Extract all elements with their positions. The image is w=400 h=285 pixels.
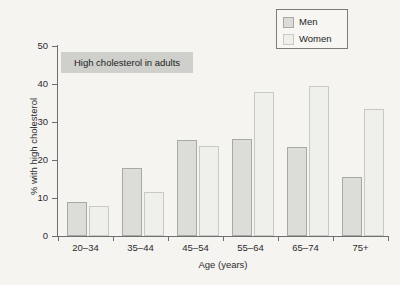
bar-men-2034	[67, 202, 87, 236]
y-axis-tick-label: 50	[20, 41, 48, 51]
x-axis-tick	[223, 236, 224, 241]
x-axis-tick-label: 65–74	[278, 243, 334, 253]
legend-item-men[interactable]: Men	[283, 14, 347, 30]
bar-men-6574	[287, 147, 307, 236]
x-axis-tick	[333, 236, 334, 241]
x-axis-tick-label: 75+	[333, 243, 389, 253]
legend-swatch-icon	[283, 34, 294, 45]
bar-women-75+	[364, 109, 384, 236]
bar-women-5564	[254, 92, 274, 236]
bar-women-4554	[199, 146, 219, 236]
x-axis-title: Age (years)	[58, 259, 388, 270]
legend-item-women[interactable]: Women	[283, 31, 347, 47]
x-axis-tick-label: 55–64	[223, 243, 279, 253]
x-axis-tick	[58, 236, 59, 241]
x-axis-tick	[168, 236, 169, 241]
bar-men-4554	[177, 140, 197, 236]
bar-men-5564	[232, 139, 252, 236]
chart-legend: MenWomen	[276, 9, 348, 49]
x-axis-tick	[278, 236, 279, 241]
bar-women-2034	[89, 206, 109, 236]
legend-item-label: Men	[299, 17, 317, 27]
chart-figure: 01020304050 20–3435–4445–5455–6465–7475+…	[0, 0, 400, 285]
legend-swatch-icon	[283, 17, 294, 28]
plot-area	[58, 46, 388, 236]
x-axis-tick-label: 45–54	[168, 243, 224, 253]
y-axis-title: % with high cholesterol	[28, 52, 39, 242]
x-axis-tick-label: 20–34	[58, 243, 114, 253]
x-axis-tick-label: 35–44	[113, 243, 169, 253]
bar-men-75+	[342, 177, 362, 236]
x-axis-tick	[388, 236, 389, 241]
legend-item-label: Women	[299, 34, 332, 44]
x-axis-tick	[113, 236, 114, 241]
chart-title-banner: High cholesterol in adults	[61, 52, 193, 73]
bar-men-3544	[122, 168, 142, 236]
bar-women-6574	[309, 86, 329, 236]
chart-title-text: High cholesterol in adults	[74, 58, 180, 68]
bar-women-3544	[144, 192, 164, 236]
